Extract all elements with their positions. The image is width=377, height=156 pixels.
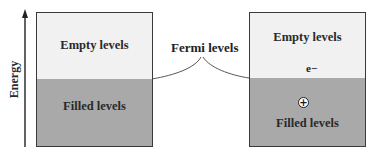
hole-plus-icon: + [298, 97, 309, 108]
left-filled-region: Filled levels [37, 79, 152, 146]
right-filled-label: Filled levels [250, 116, 365, 131]
right-empty-label: Empty levels [250, 30, 365, 45]
right-band-box: Empty levels Filled levels [249, 12, 366, 147]
left-filled-label: Filled levels [37, 99, 152, 114]
left-empty-label: Empty levels [37, 38, 152, 53]
left-empty-region: Empty levels [37, 13, 152, 80]
energy-axis-arrowhead-icon [22, 9, 28, 18]
right-filled-region: Filled levels [250, 78, 365, 146]
fermi-levels-label: Fermi levels [171, 40, 239, 56]
fermi-leader-right [203, 57, 249, 78]
electron-label: e− [306, 62, 317, 74]
energy-axis-label: Energy [7, 61, 22, 98]
fermi-leader-left [152, 57, 201, 79]
left-band-box: Empty levels Filled levels [36, 12, 153, 147]
